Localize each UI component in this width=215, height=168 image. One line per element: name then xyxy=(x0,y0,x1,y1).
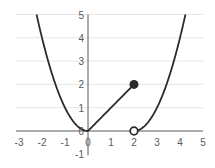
closed-endpoint-marker xyxy=(130,80,139,89)
y-tick-label: 2 xyxy=(78,79,84,90)
x-tick-label: 0 xyxy=(85,137,91,148)
x-tick-label: 4 xyxy=(177,137,183,148)
x-tick-label: -1 xyxy=(61,137,70,148)
x-tick-labels: -3-2-1012345 xyxy=(15,137,207,148)
y-tick-label: 4 xyxy=(78,33,84,44)
curve-segment-3 xyxy=(134,15,185,132)
x-tick-label: -3 xyxy=(15,137,24,148)
piecewise-function-chart: -3-2-1012345 -1012345 xyxy=(0,0,215,168)
chart-canvas: -3-2-1012345 -1012345 xyxy=(0,0,215,168)
gridlines xyxy=(16,15,203,108)
x-tick-label: -2 xyxy=(38,137,47,148)
y-tick-label: -1 xyxy=(75,149,84,160)
curves xyxy=(37,15,186,132)
open-endpoint-marker xyxy=(130,127,138,135)
x-tick-label: 3 xyxy=(154,137,160,148)
x-tick-label: 5 xyxy=(200,137,206,148)
y-tick-label: 1 xyxy=(78,103,84,114)
y-tick-label: 5 xyxy=(78,10,84,21)
x-tick-label: 2 xyxy=(131,137,137,148)
y-tick-label: 3 xyxy=(78,56,84,67)
x-tick-label: 1 xyxy=(108,137,114,148)
